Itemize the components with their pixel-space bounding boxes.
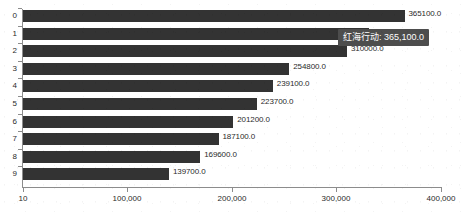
chart-tooltip: 红海行动: 365,100.0 [338, 29, 429, 46]
x-axis-tick-mark [23, 188, 24, 192]
x-axis-tick-label: 300,000 [322, 194, 351, 203]
bar[interactable] [23, 63, 289, 75]
x-axis-tick-mark [336, 188, 337, 192]
bar[interactable] [23, 10, 405, 22]
bar-value-label: 187100.0 [223, 132, 256, 141]
x-axis-tick-mark [441, 188, 442, 192]
bar-value-label: 365100.0 [409, 9, 442, 18]
x-axis-tick-mark [232, 188, 233, 192]
bar-value-label: 254800.0 [293, 62, 326, 71]
bar[interactable] [23, 98, 257, 110]
bar[interactable] [23, 116, 233, 128]
x-axis-tick-label: 10 [19, 194, 28, 203]
bar[interactable] [23, 80, 273, 92]
bar-value-label: 201200.0 [237, 115, 270, 124]
bar[interactable] [23, 151, 200, 163]
bar[interactable] [23, 133, 219, 145]
bar-chart: 0123456789 365100.0331000.0310000.025480… [0, 0, 463, 215]
bar-value-label: 239100.0 [277, 79, 310, 88]
tooltip-series-name: 红海行动 [343, 32, 379, 42]
x-axis-tick-label: 200,000 [218, 194, 247, 203]
x-axis-tick-mark [127, 188, 128, 192]
x-axis-tick-label: 100,000 [113, 194, 142, 203]
bar-value-label: 139700.0 [173, 167, 206, 176]
bar[interactable] [23, 45, 347, 57]
bar[interactable] [23, 28, 369, 40]
bar-value-label: 169600.0 [204, 150, 237, 159]
bar[interactable] [23, 168, 169, 180]
tooltip-value: 365,100.0 [384, 32, 424, 42]
bar-value-label: 223700.0 [261, 97, 294, 106]
x-axis-tick-label: 400,000 [427, 194, 456, 203]
